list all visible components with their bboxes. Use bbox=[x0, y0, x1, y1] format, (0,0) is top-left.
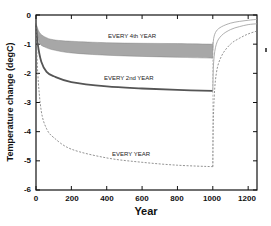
y-tick-label: -6 bbox=[24, 185, 32, 194]
y-tick-label: -1 bbox=[24, 40, 32, 49]
y-tick-label: -3 bbox=[24, 98, 32, 107]
x-tick-label: 1200 bbox=[238, 194, 256, 203]
y-tick-label: -4 bbox=[24, 127, 32, 136]
temperature-change-chart: 0 -1 -2 -3 -4 -5 -6 Temperature change (… bbox=[0, 0, 271, 226]
y-axis-title: Temperature change (degC) bbox=[5, 43, 15, 162]
y-tick-label: -2 bbox=[24, 69, 32, 78]
label-every-2nd-year: EVERY 2nd YEAR bbox=[104, 75, 154, 81]
x-tick-label: 600 bbox=[135, 194, 149, 203]
x-tick-label: 0 bbox=[34, 194, 39, 203]
x-tick-label: 800 bbox=[170, 194, 184, 203]
x-tick-label: 200 bbox=[65, 194, 79, 203]
label-every-4th-year: EVERY 4th YEAR bbox=[108, 33, 157, 39]
x-axis-title: Year bbox=[134, 205, 158, 217]
adjacent-figure-fragment bbox=[265, 48, 267, 52]
x-tick-label: 1000 bbox=[203, 194, 221, 203]
y-tick-label: 0 bbox=[27, 11, 32, 20]
label-every-year: EVERY YEAR bbox=[112, 151, 151, 157]
x-tick-label: 400 bbox=[100, 194, 114, 203]
y-tick-label: -5 bbox=[24, 156, 32, 165]
